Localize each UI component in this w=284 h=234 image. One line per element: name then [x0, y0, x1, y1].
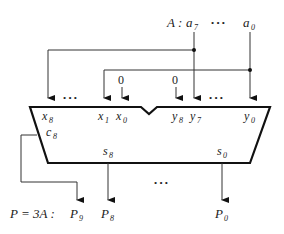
output-label: P = 3A : P 9 P 8 P 0 — [9, 206, 228, 223]
carry-wire — [21, 135, 77, 200]
svg-text:8: 8 — [49, 116, 53, 125]
svg-text:0: 0 — [251, 23, 255, 32]
input-label: A : a 7 • • • a 0 — [166, 15, 255, 32]
x-dots: • • • — [63, 93, 77, 103]
svg-text:s: s — [103, 144, 108, 158]
y-input-labels: y 8 y 7 y 0 — [171, 109, 255, 125]
x-input-labels: x 8 x 1 x 0 — [41, 109, 127, 125]
junction-dot — [248, 68, 252, 72]
output-dots: • • • — [154, 178, 168, 188]
svg-text:8: 8 — [179, 116, 183, 125]
svg-text:P: P — [214, 206, 223, 221]
svg-text:x: x — [97, 109, 104, 123]
junction-dot — [192, 48, 196, 52]
svg-text:7: 7 — [197, 116, 202, 125]
svg-text:• • •: • • • — [211, 18, 225, 28]
svg-text:x: x — [41, 109, 48, 123]
svg-text:0: 0 — [123, 116, 127, 125]
svg-text:x: x — [115, 109, 122, 123]
svg-text:0: 0 — [224, 214, 228, 223]
svg-text:s: s — [217, 144, 222, 158]
zero-input-y8: 0 — [172, 73, 178, 87]
sum-labels: s 8 s 0 — [103, 144, 227, 160]
input-wires — [48, 32, 250, 98]
carry-label: c — [46, 125, 52, 139]
svg-text:0: 0 — [251, 116, 255, 125]
y-dots: • • • — [209, 93, 223, 103]
adder-body — [30, 107, 270, 163]
svg-text:7: 7 — [194, 23, 199, 32]
svg-text:a: a — [243, 15, 250, 30]
svg-text:A :: A : — [166, 15, 182, 30]
svg-text:8: 8 — [109, 151, 113, 160]
carry-label-sub: 8 — [53, 132, 57, 141]
svg-text:0: 0 — [223, 151, 227, 160]
svg-text:P: P — [100, 206, 109, 221]
adder-diagram: A : a 7 • • • a 0 0 0 • • • • • • x 8 x … — [0, 0, 284, 234]
svg-text:P: P — [69, 206, 78, 221]
svg-text:y: y — [171, 109, 178, 123]
svg-text:y: y — [189, 109, 196, 123]
svg-text:y: y — [243, 109, 250, 123]
zero-input-x0: 0 — [118, 73, 124, 87]
svg-text:8: 8 — [110, 214, 114, 223]
svg-text:1: 1 — [105, 116, 109, 125]
svg-text:9: 9 — [79, 214, 83, 223]
svg-text:P = 3A :: P = 3A : — [9, 206, 55, 221]
svg-text:a: a — [186, 15, 193, 30]
